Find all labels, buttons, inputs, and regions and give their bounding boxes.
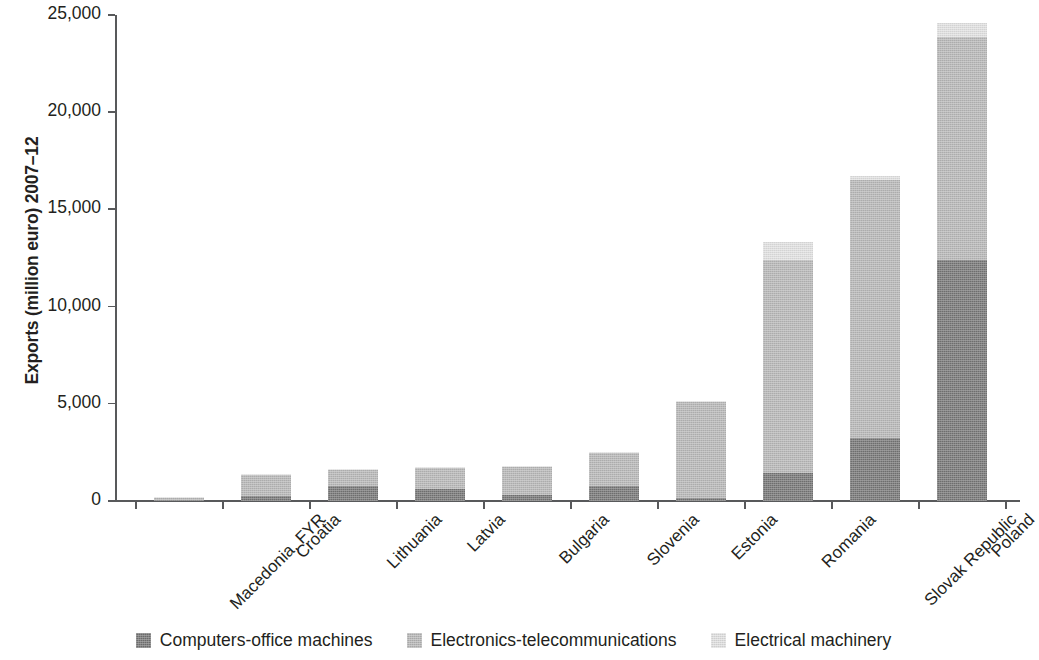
x-axis-tick [657,501,659,509]
x-axis-label: Bulgaria [555,510,613,568]
x-axis-label: Slovenia [643,510,703,570]
bar-segment[interactable] [676,402,726,498]
bar-segment[interactable] [154,498,204,500]
y-axis-tick [108,306,115,308]
bar-segment[interactable] [328,470,378,487]
x-axis-label: Lithuania [383,510,446,573]
stacked-bar[interactable] [502,466,552,501]
y-axis-tick [108,208,115,210]
x-axis-tick [483,501,485,509]
x-axis-tick [831,501,833,509]
bar-segment[interactable] [850,438,900,501]
stacked-bar[interactable] [241,474,291,501]
x-axis-tick [396,501,398,509]
bar-segment[interactable] [850,180,900,438]
y-axis-tick-label: 25,000 [0,5,101,23]
bar-group[interactable] [850,15,900,501]
y-axis-tick-label: 5,000 [0,394,101,412]
bar-group[interactable] [241,15,291,501]
bar-segment[interactable] [589,452,639,453]
y-axis-tick [108,111,115,113]
bar-segment[interactable] [502,466,552,467]
legend-label: Computers-office machines [160,630,373,651]
bar-segment[interactable] [502,495,552,501]
bar-segment[interactable] [415,468,465,489]
y-axis-tick-label: 10,000 [0,297,101,315]
bar-segment[interactable] [154,497,204,498]
bar-group[interactable] [502,15,552,501]
bar-segment[interactable] [241,475,291,496]
legend-swatch-icon [711,633,726,648]
bar-segment[interactable] [589,486,639,501]
plot-area: 05,00010,00015,00020,00025,000 Macedonia… [115,14,1020,501]
stacked-bar[interactable] [937,23,987,501]
bar-segment[interactable] [154,500,204,501]
y-axis-tick-label: 15,000 [0,199,101,217]
bar-segment[interactable] [937,23,987,38]
y-axis-tick [108,14,115,16]
bar-segment[interactable] [589,453,639,486]
y-axis-tick-label: 20,000 [0,102,101,120]
bar-segment[interactable] [676,498,726,501]
legend-label: Electronics-telecommunications [431,630,677,651]
bar-group[interactable] [589,15,639,501]
bar-segment[interactable] [241,474,291,475]
legend-swatch-icon [136,633,151,648]
stacked-bar[interactable] [763,241,813,501]
legend-item[interactable]: Electronics-telecommunications [407,630,677,651]
x-axis-label: Slovak Republic [920,510,1020,610]
stacked-bar[interactable] [415,467,465,501]
bar-group[interactable] [763,15,813,501]
bar-segment[interactable] [937,37,987,260]
bar-segment[interactable] [937,260,987,501]
legend-item[interactable]: Computers-office machines [136,630,373,651]
x-axis-tick [570,501,572,509]
y-axis-tick [108,500,115,502]
bar-group[interactable] [937,15,987,501]
y-axis-tick-label: 0 [0,491,101,509]
legend-item[interactable]: Electrical machinery [711,630,892,651]
bar-segment[interactable] [850,176,900,180]
x-axis-tick [309,501,311,509]
bar-group[interactable] [676,15,726,501]
x-axis-label: Romania [817,510,879,572]
stacked-bar[interactable] [676,401,726,501]
y-axis-tick [108,403,115,405]
bar-segment[interactable] [328,469,378,470]
x-axis-tick [1005,501,1007,509]
y-axis-line [115,15,117,501]
x-axis-tick [744,501,746,509]
bar-segment[interactable] [241,496,291,501]
x-axis-label: Latvia [463,510,509,556]
bar-segment[interactable] [502,467,552,495]
bar-segment[interactable] [328,486,378,501]
legend-swatch-icon [407,633,422,648]
stacked-bar[interactable] [589,452,639,501]
x-axis-label: Estonia [727,510,781,564]
x-axis-tick [222,501,224,509]
bar-group[interactable] [328,15,378,501]
x-axis-tick [135,501,137,509]
bar-segment[interactable] [763,242,813,260]
stacked-bar[interactable] [328,469,378,501]
bar-segment[interactable] [415,467,465,468]
bar-segment[interactable] [763,473,813,501]
stacked-bar[interactable] [850,176,900,501]
legend-label: Electrical machinery [735,630,892,651]
bar-segment[interactable] [763,260,813,473]
bar-group[interactable] [415,15,465,501]
bar-segment[interactable] [676,401,726,402]
x-axis-tick [918,501,920,509]
chart-legend: Computers-office machinesElectronics-tel… [0,630,1027,651]
bar-group[interactable] [154,15,204,501]
stacked-bar[interactable] [154,497,204,501]
bar-segment[interactable] [415,489,465,501]
